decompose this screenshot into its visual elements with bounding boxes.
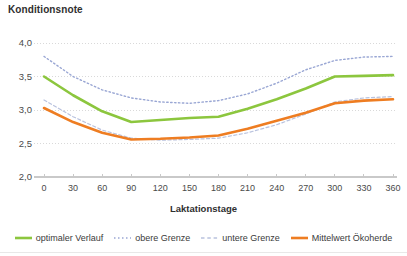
legend-swatch-icon	[114, 234, 131, 242]
legend-label: Mittelwert Ökoherde	[312, 233, 393, 243]
bottom-divider	[0, 252, 407, 253]
series-line	[44, 56, 393, 103]
x-tick-label: 120	[147, 183, 173, 193]
legend-swatch-icon	[15, 234, 32, 242]
x-tick-label: 240	[264, 183, 290, 193]
plot-svg	[0, 0, 407, 256]
y-tick-label: 2,5	[6, 138, 32, 149]
legend-swatch-icon	[291, 234, 308, 242]
legend-label: optimaler Verlauf	[36, 233, 104, 243]
x-tick-label: 270	[293, 183, 319, 193]
x-tick-label: 330	[351, 183, 377, 193]
x-tick-label: 300	[322, 183, 348, 193]
y-tick-label: 2,0	[6, 171, 32, 182]
series-line	[44, 75, 393, 122]
legend-swatch-icon	[201, 234, 218, 242]
x-tick-label: 60	[89, 183, 115, 193]
x-tick-label: 150	[176, 183, 202, 193]
series-lines	[44, 56, 393, 140]
legend-item[interactable]: optimaler Verlauf	[15, 233, 104, 243]
chart-legend: optimaler Verlaufobere Grenzeuntere Gren…	[0, 228, 407, 248]
legend-item[interactable]: untere Grenze	[201, 233, 280, 243]
x-tick-label: 210	[235, 183, 261, 193]
x-tick-label: 0	[31, 183, 57, 193]
legend-item[interactable]: Mittelwert Ökoherde	[291, 233, 393, 243]
x-tick-label: 30	[60, 183, 86, 193]
legend-item[interactable]: obere Grenze	[114, 233, 190, 243]
series-line	[44, 99, 393, 139]
x-axis-title: Laktationstage	[0, 203, 407, 214]
legend-label: obere Grenze	[135, 233, 190, 243]
plot-area: 2,02,53,03,54,0 030609012015018021024027…	[0, 0, 407, 256]
x-tick-label: 90	[118, 183, 144, 193]
y-tick-label: 4,0	[6, 37, 32, 48]
legend-label: untere Grenze	[222, 233, 280, 243]
x-tick-label: 360	[380, 183, 406, 193]
y-tick-label: 3,5	[6, 71, 32, 82]
gridlines	[34, 43, 397, 177]
chart-figure: Konditionsnote 2,02,53,03,54,0 030609012…	[0, 0, 407, 256]
x-tick-label: 180	[206, 183, 232, 193]
y-tick-label: 3,0	[6, 104, 32, 115]
